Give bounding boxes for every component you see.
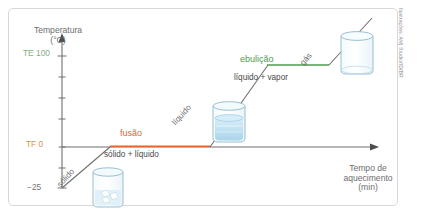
- y-tick-label-tf: TF 0: [26, 140, 43, 149]
- illustration-credit: Ilustrações: AMj Studio/ID/BR: [398, 8, 404, 118]
- y-tick-label-te: TE 100: [23, 49, 50, 58]
- beaker-vapor: [341, 32, 373, 74]
- y-axis-unit: (°C): [26, 36, 90, 46]
- x-axis-unit: (min): [330, 183, 406, 193]
- annotation-liquido-vapor: líquido + vapor: [234, 73, 288, 82]
- y-axis: [58, 33, 67, 188]
- annotation-ebulicao: ebulição: [240, 54, 274, 64]
- beaker-water: [213, 102, 245, 142]
- annotation-solido-liquido: sólido + líquido: [104, 150, 159, 159]
- x-axis-title: Tempo de aquecimento (min): [330, 164, 406, 193]
- heating-curve-figure: Temperatura (°C) Tempo de aquecimento (m…: [0, 0, 428, 217]
- y-tick-label-minus25: −25: [27, 183, 41, 192]
- beaker-ice: [93, 168, 123, 207]
- y-axis-title: Temperatura (°C): [26, 26, 90, 45]
- y-axis-title-text: Temperatura: [34, 25, 82, 35]
- annotation-fusao: fusão: [120, 128, 142, 138]
